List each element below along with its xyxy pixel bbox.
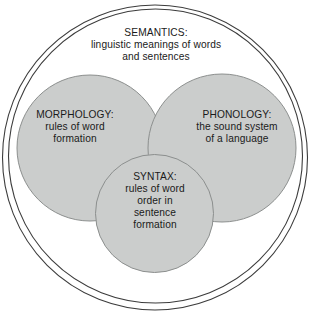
syntax-circle (96, 155, 214, 273)
venn-diagram-graphic (0, 0, 311, 315)
language-components-diagram: SEMANTICS: linguistic meanings of words … (0, 0, 311, 315)
